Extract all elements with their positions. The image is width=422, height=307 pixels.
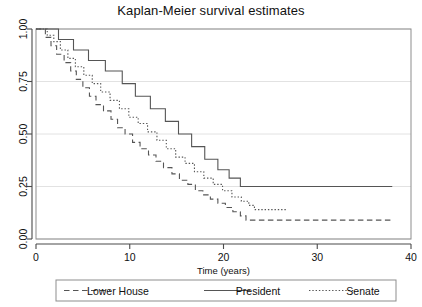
y-tick-label-4: 1.00 [17,19,29,40]
x-tick-label-2: 20 [218,251,230,263]
x-axis-title: Time (years) [197,265,250,276]
x-tick-label-3: 30 [311,251,323,263]
curve-lower-house [36,29,392,220]
y-tick-label-0: 0.00 [17,229,29,250]
survival-plot: 0.000.250.500.751.00010203040Time (years… [0,0,422,307]
kaplan-meier-figure: Kaplan-Meier survival estimates 0.000.25… [0,0,422,307]
y-tick-label-2: 0.50 [17,124,29,145]
x-tick-label-0: 0 [33,251,39,263]
legend-label-president: President [236,285,280,297]
curve-president [36,29,392,187]
legend-label-senate: Senate [346,285,379,297]
curve-senate [36,29,287,210]
y-tick-label-3: 0.75 [17,71,29,92]
x-tick-label-4: 40 [405,251,417,263]
legend-label-lower-house: Lower House [87,285,149,297]
y-tick-label-1: 0.25 [17,176,29,197]
x-tick-label-1: 10 [124,251,136,263]
